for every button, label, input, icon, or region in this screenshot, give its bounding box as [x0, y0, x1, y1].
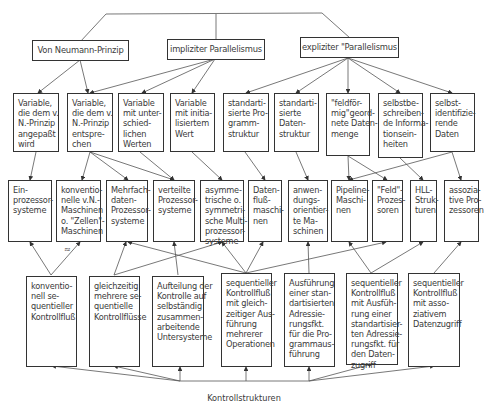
box-feldfoermige-datenmenge: "feldför- mig"geord- nete Daten- menge: [326, 93, 370, 156]
box-standartisierte-datenstruktur: standarti- sierte Daten- struktur: [274, 93, 319, 152]
box-selbstidentifizierende-daten: selbst- identifizie- rende Daten: [430, 93, 475, 152]
box-einprozessorsysteme: Ein- prozessor- systeme: [8, 180, 52, 242]
stray-mark: ≈: [64, 245, 71, 254]
box-anwendungsorientierte-maschinen: anwen- dungs- orientier- te Ma- schinen: [288, 180, 328, 242]
box-assoziativer-datenzugriff: sequentieller Kontrollfluß mit asso- zia…: [408, 273, 460, 367]
label: expliziter "Parallelismus: [302, 42, 397, 52]
box-impliziter-parallelismus: impliziter Parallelismus: [167, 39, 265, 60]
box-konventionell-sequentieller-kontrollfluss: konventio- nell se- quentieller Kontroll…: [26, 276, 77, 367]
box-datenflussmaschinen: Daten- fluß- maschi- nen: [248, 180, 282, 242]
box-variable-angepasst: Variable, die dem v. N.-Prinzip angepaßt…: [13, 93, 59, 152]
label: Von Neumann-Prinzip: [37, 45, 123, 55]
box-variable-entsprechen: Variable, die dem v. N.-Prinzip entspre-…: [67, 93, 113, 152]
kontrollstrukturen-label: Kontrollstrukturen: [0, 393, 488, 403]
box-assoziative-prozessoren: assozia- tive Pro- zessoren: [444, 180, 479, 242]
box-adressierungsfkt-programmausfuehrung: Ausführung einer stan- dartisierten Adre…: [284, 273, 335, 367]
box-hll-strukturen: HLL- Struk- turen: [410, 180, 437, 242]
box-mehrere-sequentielle-kontrollfluesse: gleichzeitig mehrere se- quentielle Kont…: [89, 276, 140, 367]
box-variable-initialisiert: Variable mit initia- lisiertem Wert: [170, 93, 215, 152]
box-adressierungsfkt-datenzugriff: sequentieller Kontrollfluß mit Ausfüh- r…: [346, 273, 398, 365]
box-multiprozessorsysteme: asymme- trische o. symmetri- sche Multi-…: [200, 180, 244, 242]
label: impliziter Parallelismus: [170, 44, 262, 54]
box-standartisierte-programmstruktur: standarti- sierte Pro- gramm- struktur: [223, 93, 269, 152]
box-konventionelle-vn-maschinen: konventio- nelle v.N.- Maschinen o. "Zel…: [56, 180, 101, 242]
box-sequentiell-gleichzeitige-ausfuehrung: sequentieller Kontrollfluß mit gleich- z…: [221, 273, 272, 367]
box-selbstbeschreibende-informationseinheiten: selbstbe- schreiben- de Informa- tionsei…: [378, 93, 423, 158]
box-feld-prozessoren: "Feld"- Prozes- soren: [372, 180, 403, 242]
box-aufteilung-der-kontrolle: Aufteilung der Kontrolle auf selbständig…: [152, 276, 204, 367]
box-mehrfachdaten-prozessorsysteme: Mehrfach- daten- Prozessor- systeme: [106, 180, 148, 242]
architecture-classification-diagram: Von Neumann-Prinzip impliziter Paralleli…: [0, 0, 488, 410]
box-von-neumann-prinzip: Von Neumann-Prinzip: [32, 40, 129, 61]
box-variable-unterschiedliche-werte: Variable mit unter- schied- lichen Werte…: [118, 93, 164, 152]
box-expliziter-parallelismus: expliziter "Parallelismus: [300, 37, 399, 58]
box-verteilte-prozessorsysteme: verteilte Prozessor- systeme: [153, 180, 195, 242]
box-pipeline-maschinen: Pipeline- Maschi- nen: [331, 180, 368, 242]
